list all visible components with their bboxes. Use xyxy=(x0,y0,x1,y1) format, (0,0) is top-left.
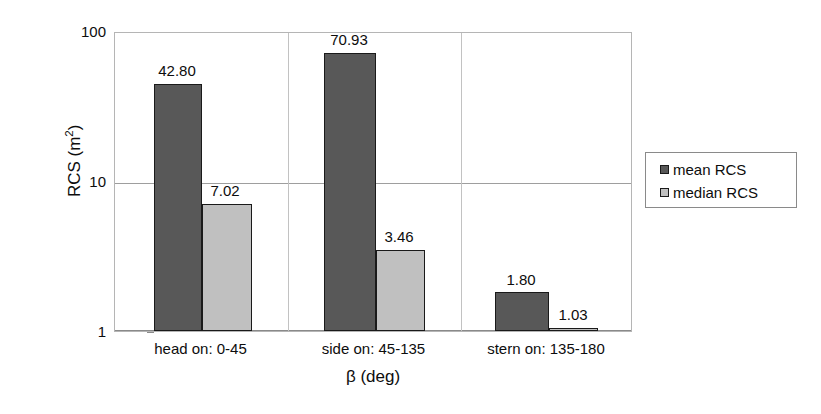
value-label-mean-side-on: 70.93 xyxy=(309,31,389,48)
value-label-mean-stern-on: 1.80 xyxy=(481,271,561,288)
legend-item-median-rcs[interactable]: median RCS xyxy=(660,182,796,203)
value-label-median-side-on: 3.46 xyxy=(359,228,439,245)
group-separator-1 xyxy=(288,33,289,331)
legend-swatch-icon-median xyxy=(660,188,669,197)
value-label-median-head-on: 7.02 xyxy=(185,182,265,199)
x-tick-label-head-on: head on: 0-45 xyxy=(114,340,287,357)
y-tick-label-10: 10 xyxy=(89,173,106,190)
y-axis-title-text: RCS (m xyxy=(65,137,84,197)
bar-mean-side-on[interactable] xyxy=(324,53,376,331)
legend-item-mean-rcs[interactable]: mean RCS xyxy=(660,159,796,180)
y-axis-title: RCS (m2) xyxy=(63,81,85,241)
y-axis: RCS (m2) 100 10 1 xyxy=(40,0,106,414)
legend-label-median: median RCS xyxy=(673,184,758,201)
legend-label-mean: mean RCS xyxy=(673,161,746,178)
bar-median-side-on[interactable] xyxy=(376,250,425,331)
legend-swatch-icon-mean xyxy=(660,165,669,174)
value-label-mean-head-on: 42.80 xyxy=(137,62,217,79)
y-tick-label-1: 1 xyxy=(98,323,106,340)
x-tick-label-stern-on: stern on: 135-180 xyxy=(460,340,632,357)
y-axis-title-exponent: 2 xyxy=(63,130,75,136)
bar-mean-head-on[interactable] xyxy=(154,84,202,331)
bar-median-stern-on[interactable] xyxy=(549,328,598,331)
x-tick-label-side-on: side on: 45-135 xyxy=(287,340,460,357)
y-tick-label-100: 100 xyxy=(81,23,106,40)
x-axis-title: β (deg) xyxy=(114,367,632,387)
y-tick-mark-1 xyxy=(147,332,154,333)
chart-legend: mean RCS median RCS xyxy=(645,152,797,208)
value-label-median-stern-on: 1.03 xyxy=(533,306,613,323)
bar-median-head-on[interactable] xyxy=(202,204,252,331)
chart-screenshot: RCS (m2) 100 10 1 42.80 7.02 70.93 3.46 … xyxy=(0,0,821,414)
group-separator-2 xyxy=(461,33,462,331)
y-axis-title-paren: ) xyxy=(65,125,84,131)
